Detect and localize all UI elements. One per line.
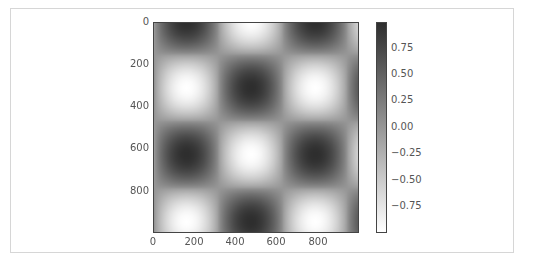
heatmap-plot-area — [153, 22, 359, 233]
colorbar — [376, 22, 387, 233]
x-tick-label: 600 — [256, 237, 296, 247]
colorbar-tick-label: 0.00 — [391, 122, 413, 132]
x-tick-label: 800 — [298, 237, 338, 247]
heatmap-image — [154, 23, 358, 232]
colorbar-tick-label: −0.50 — [391, 175, 422, 185]
colorbar-tick-label: −0.25 — [391, 148, 422, 158]
colorbar-tick-label: 0.75 — [391, 43, 413, 53]
y-tick-label: 0 — [109, 17, 149, 27]
colorbar-tick-label: 0.25 — [391, 95, 413, 105]
colorbar-tick-label: 0.50 — [391, 69, 413, 79]
x-tick-label: 400 — [215, 237, 255, 247]
y-tick-label: 400 — [109, 101, 149, 111]
colorbar-tick-label: −0.75 — [391, 201, 422, 211]
x-tick-label: 200 — [174, 237, 214, 247]
x-tick-label: 0 — [133, 237, 173, 247]
y-tick-label: 600 — [109, 143, 149, 153]
y-tick-label: 800 — [109, 186, 149, 196]
y-tick-label: 200 — [109, 59, 149, 69]
